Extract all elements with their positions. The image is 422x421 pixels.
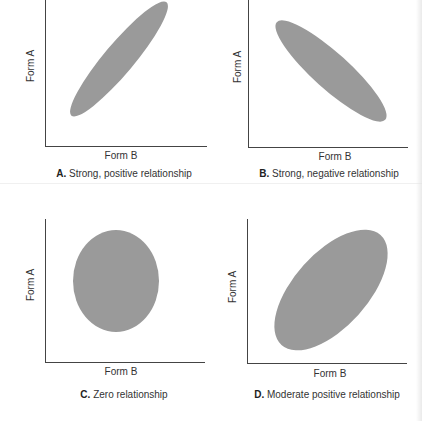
panel-c-y-label: Form A: [25, 269, 36, 301]
panel-a-plot: [45, 0, 207, 146]
scatter-diagrams: [0, 0, 422, 421]
panel-d-letter: D.: [254, 389, 264, 400]
panel-d-caption: D. Moderate positive relationship: [254, 389, 400, 400]
panel-a-y-label: Form A: [25, 50, 36, 82]
panel-c-scatter-ellipse: [73, 230, 159, 332]
panel-d-scatter-ellipse: [254, 210, 408, 370]
panel-c-letter: C.: [80, 389, 90, 400]
panel-b-letter: B.: [259, 168, 269, 179]
panel-b-y-label: Form A: [232, 51, 243, 83]
panel-a-caption: A. Strong, positive relationship: [56, 168, 192, 179]
panel-b-plot: [248, 0, 408, 148]
panel-d-plot: [247, 210, 408, 370]
panel-b-caption: B. Strong, negative relationship: [259, 168, 399, 179]
panel-d-x-label: Form B: [314, 368, 347, 379]
panel-c-x-label: Form B: [105, 366, 138, 377]
panel-c-plot: [45, 219, 205, 363]
panel-b-scatter-ellipse: [265, 9, 398, 133]
panel-b-x-label: Form B: [319, 151, 352, 162]
page-edge-shadow: [416, 0, 422, 421]
panel-c-caption-text: Zero relationship: [90, 389, 167, 400]
panel-b-caption-text: Strong, negative relationship: [269, 168, 399, 179]
panel-a-scatter-ellipse: [60, 0, 178, 125]
panel-a-caption-text: Strong, positive relationship: [66, 168, 192, 179]
panel-c-caption: C. Zero relationship: [80, 389, 167, 400]
panel-a-x-label: Form B: [105, 150, 138, 161]
panel-a-letter: A.: [56, 168, 66, 179]
panel-d-caption-text: Moderate positive relationship: [264, 389, 400, 400]
panel-d-y-label: Form A: [227, 271, 238, 303]
